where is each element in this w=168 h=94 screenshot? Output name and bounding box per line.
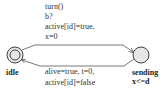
- edge-label-update-clock: x=0: [45, 32, 58, 42]
- location-idle-inner: [10, 50, 20, 60]
- edge-label-update-active: active[id]=true,: [45, 22, 95, 32]
- edge-label-update-inactive: active[id]=false: [45, 78, 95, 88]
- location-sending[interactable]: [133, 47, 149, 63]
- edge-label-update-alive: alive=true, t=0,: [45, 67, 94, 77]
- location-idle[interactable]: [7, 47, 23, 63]
- edge-label-guard-channel: b?: [45, 12, 53, 22]
- location-idle-name: idle: [6, 68, 18, 77]
- edge-sending-to-idle[interactable]: [22, 59, 134, 66]
- location-sending-invariant: x<=d: [132, 77, 150, 86]
- location-sending-name: sending: [132, 68, 158, 77]
- edge-label-sync-call: turn(): [45, 2, 63, 12]
- edge-idle-to-sending[interactable]: [22, 45, 133, 52]
